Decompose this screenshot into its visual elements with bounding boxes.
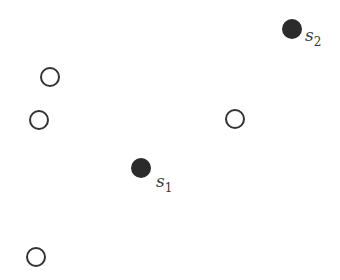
- hollow-point: [27, 248, 45, 266]
- hollow-point: [41, 68, 59, 86]
- hollow-point: [226, 110, 244, 128]
- hollow-point: [30, 111, 48, 129]
- point-diagram: s1 s2: [0, 0, 340, 280]
- filled-point-s2: [282, 19, 302, 39]
- label-s1: s1: [156, 171, 172, 195]
- label-s2: s2: [305, 25, 321, 49]
- filled-point-s1: [131, 158, 151, 178]
